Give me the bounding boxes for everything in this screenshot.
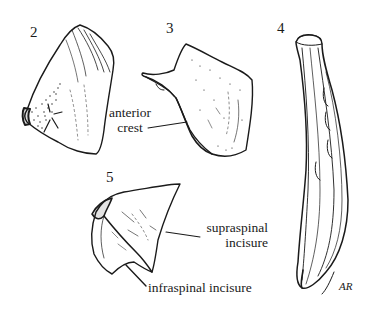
anterior-crest-label: anterior crest [104,105,156,135]
figure-drawings: AR [0,0,370,311]
supraspinal-label-line1: supraspinal [190,220,268,235]
panel-number-4: 4 [277,20,285,37]
supraspinal-incisure-label: supraspinal incisure [190,220,268,250]
supraspinal-label-line2: incisure [190,235,268,250]
artist-signature: AR [338,280,353,292]
panel-number-3: 3 [166,20,174,37]
anterior-crest-label-line2: crest [104,120,156,135]
panel-number-5: 5 [106,169,114,186]
panel-number-2: 2 [30,24,38,41]
bone-2-drawing [23,25,114,154]
bone-4-drawing: AR [296,35,353,294]
infraspinal-incisure-label: infraspinal incisure [148,280,252,295]
bone-5-drawing [92,184,200,286]
anterior-crest-label-line1: anterior [104,105,156,120]
bone-3-drawing [142,44,253,156]
scientific-figure: AR 2 3 4 5 anterior crest supraspin [0,0,370,311]
